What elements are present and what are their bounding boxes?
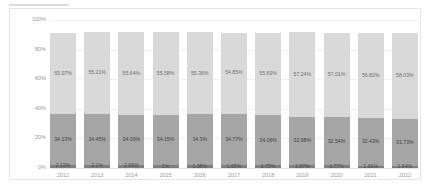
y-tick-label: 100%: [32, 16, 46, 22]
bar-segment-label: 2%: [162, 164, 170, 169]
bar-segment-label: 55.21%: [88, 70, 106, 75]
x-tick-label: 2020: [324, 172, 350, 178]
bar-segment-label: 1.75%: [261, 164, 276, 169]
bar-column[interactable]: 56.82%32.43%1.66%: [358, 20, 384, 168]
bar-segment-label: 2.13%: [56, 164, 71, 169]
y-tick-label: 20%: [35, 134, 46, 140]
bar-column[interactable]: 57.24%32.68%1.87%: [289, 20, 315, 168]
bar-segment-top[interactable]: 55.07%: [50, 33, 76, 115]
bar-segment-bottom[interactable]: 1.66%: [358, 166, 384, 168]
x-tick-label: 2016: [187, 172, 213, 178]
bar-column[interactable]: 55.64%34.09%2.06%: [118, 20, 144, 168]
bar-segment-label: 55.07%: [54, 71, 72, 76]
bar-segment-label: 57.24%: [294, 72, 312, 77]
x-tick-label: 2019: [289, 172, 315, 178]
bar-column[interactable]: 55.69%34.06%1.75%: [255, 20, 281, 168]
bar-segment-bottom[interactable]: 1.75%: [255, 165, 281, 168]
bar-segment-label: 34.06%: [259, 138, 277, 143]
bar-segment-middle[interactable]: 34.06%: [255, 115, 281, 165]
bar-column[interactable]: 57.01%32.54%1.77%: [324, 20, 350, 168]
bar-segment-label: 57.01%: [328, 72, 346, 77]
bar-segment-bottom[interactable]: 2.13%: [50, 165, 76, 168]
bar-column[interactable]: 55.36%34.3%1.98%: [187, 20, 213, 168]
bar-segment-middle[interactable]: 34.45%: [84, 114, 110, 165]
bar-segment-top[interactable]: 57.01%: [324, 33, 350, 117]
bar-segment-top[interactable]: 55.58%: [153, 32, 179, 114]
bar-segment-label: 1.87%: [295, 164, 310, 169]
y-tick-label: 60%: [35, 75, 46, 81]
bar-segment-label: 1.64%: [398, 164, 413, 169]
x-tick-label: 2022: [392, 172, 418, 178]
bar-segment-top[interactable]: 58.03%: [392, 33, 418, 119]
x-tick-label: 2021: [358, 172, 384, 178]
bar-group: 55.07%34.13%2.13%55.21%34.45%2.1%55.64%3…: [50, 20, 418, 168]
bar-segment-top[interactable]: 56.82%: [358, 33, 384, 117]
bar-segment-label: 34.45%: [88, 137, 106, 142]
bar-segment-label: 1.95%: [227, 164, 242, 169]
top-rule-decoration: [9, 4, 69, 6]
bar-column[interactable]: 54.85%34.77%1.95%: [221, 20, 247, 168]
x-tick-label: 2012: [50, 172, 76, 178]
bar-segment-bottom[interactable]: 2.06%: [118, 165, 144, 168]
bar-column[interactable]: 58.03%31.73%1.64%: [392, 20, 418, 168]
bar-segment-label: 34.09%: [123, 137, 141, 142]
bar-segment-label: 34.77%: [225, 137, 243, 142]
bar-segment-label: 55.58%: [157, 71, 175, 76]
bar-segment-label: 1.66%: [363, 164, 378, 169]
bar-segment-label: 31.73%: [396, 140, 414, 145]
bar-segment-top[interactable]: 55.36%: [187, 32, 213, 114]
bar-segment-label: 54.85%: [225, 70, 243, 75]
bar-segment-label: 2.06%: [124, 164, 139, 169]
bar-segment-middle[interactable]: 34.3%: [187, 114, 213, 165]
bar-segment-middle[interactable]: 31.73%: [392, 119, 418, 166]
x-tick-label: 2014: [118, 172, 144, 178]
bar-column[interactable]: 55.58%34.15%2%: [153, 20, 179, 168]
bar-segment-middle[interactable]: 32.43%: [358, 118, 384, 166]
bar-segment-label: 32.54%: [328, 139, 346, 144]
bar-segment-top[interactable]: 55.21%: [84, 32, 110, 114]
bar-segment-bottom[interactable]: 2.1%: [84, 165, 110, 168]
bar-segment-label: 55.64%: [123, 71, 141, 76]
bar-segment-label: 34.13%: [54, 137, 72, 142]
chart-screenshot: Share of GDP 100%80%60%40%20%0% 55.07%34…: [0, 0, 430, 186]
bar-segment-label: 32.43%: [362, 139, 380, 144]
x-tick-label: 2017: [221, 172, 247, 178]
bar-segment-middle[interactable]: 34.77%: [221, 114, 247, 165]
bar-segment-label: 56.82%: [362, 73, 380, 78]
bar-segment-label: 34.3%: [192, 137, 207, 142]
y-tick-label: 80%: [35, 46, 46, 52]
x-tick-label: 2015: [153, 172, 179, 178]
bar-segment-label: 1.77%: [329, 164, 344, 169]
y-tick-label: 0%: [38, 164, 46, 170]
x-axis-ticks: 2012201320142015201620172018201920202021…: [50, 172, 418, 178]
bar-segment-label: 1.98%: [192, 164, 207, 169]
bar-segment-label: 55.36%: [191, 71, 209, 76]
bar-segment-label: 34.15%: [157, 137, 175, 142]
bar-segment-top[interactable]: 55.64%: [118, 32, 144, 114]
bar-segment-middle[interactable]: 34.13%: [50, 114, 76, 165]
plot-area: Share of GDP 100%80%60%40%20%0% 55.07%34…: [50, 20, 418, 168]
bar-segment-middle[interactable]: 34.09%: [118, 115, 144, 165]
bar-segment-middle[interactable]: 32.54%: [324, 117, 350, 165]
bar-segment-top[interactable]: 55.69%: [255, 33, 281, 115]
x-tick-label: 2018: [255, 172, 281, 178]
bar-column[interactable]: 55.21%34.45%2.1%: [84, 20, 110, 168]
bar-segment-label: 2.1%: [91, 164, 103, 169]
bar-segment-middle[interactable]: 34.15%: [153, 115, 179, 166]
bar-segment-label: 55.69%: [259, 71, 277, 76]
x-tick-label: 2013: [84, 172, 110, 178]
bar-segment-top[interactable]: 54.85%: [221, 33, 247, 114]
bar-segment-bottom[interactable]: 1.87%: [289, 165, 315, 168]
bar-segment-bottom[interactable]: 1.64%: [392, 166, 418, 168]
bar-segment-middle[interactable]: 32.68%: [289, 117, 315, 165]
bar-segment-bottom[interactable]: 2%: [153, 165, 179, 168]
bar-column[interactable]: 55.07%34.13%2.13%: [50, 20, 76, 168]
bar-segment-label: 58.03%: [396, 73, 414, 78]
y-tick-label: 40%: [35, 105, 46, 111]
bar-segment-label: 32.68%: [294, 138, 312, 143]
bar-segment-top[interactable]: 57.24%: [289, 32, 315, 117]
bar-segment-bottom[interactable]: 1.77%: [324, 165, 350, 168]
bar-segment-bottom[interactable]: 1.95%: [221, 165, 247, 168]
bar-segment-bottom[interactable]: 1.98%: [187, 165, 213, 168]
